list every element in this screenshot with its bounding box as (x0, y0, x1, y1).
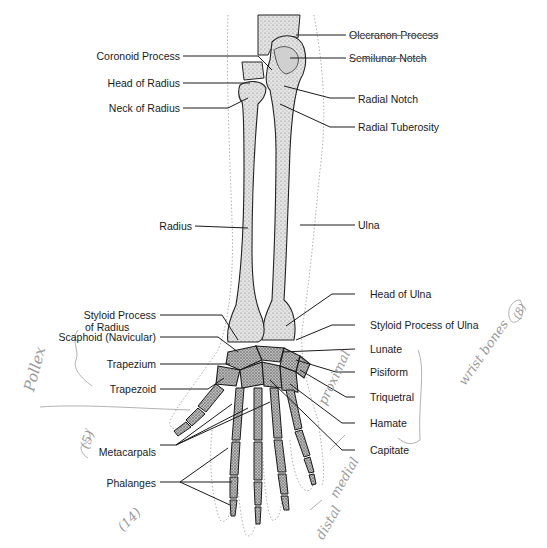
label-styloid-process-radius: Styloid Process (72, 309, 156, 321)
label-ulna: Ulna (358, 219, 380, 231)
label-semilunar-notch: Semilunar Notch (349, 52, 427, 64)
label-head-of-radius: Head of Radius (96, 77, 180, 89)
label-radial-tuberosity: Radial Tuberosity (358, 121, 439, 133)
label-neck-of-radius: Neck of Radius (96, 102, 180, 114)
ulna-bone (262, 36, 306, 340)
forearm-hand-diagram (0, 0, 547, 548)
label-phalanges: Phalanges (72, 477, 156, 489)
hand-bones (174, 384, 316, 524)
label-olecranon-process: Olecranon Process (349, 29, 438, 41)
carpal-bones (216, 346, 310, 392)
label-radius: Radius (130, 220, 192, 232)
label-capitate: Capitate (370, 444, 409, 456)
label-triquetral: Triquetral (370, 391, 414, 403)
label-scaphoid: Scaphoid (Navicular) (40, 331, 156, 343)
label-trapezoid: Trapezoid (72, 383, 156, 395)
label-head-of-ulna: Head of Ulna (370, 288, 431, 300)
label-radial-notch: Radial Notch (358, 93, 418, 105)
label-trapezium: Trapezium (72, 358, 156, 370)
label-lunate: Lunate (370, 343, 402, 355)
label-coronoid-process: Coronoid Process (96, 50, 180, 62)
label-styloid-process-ulna: Styloid Process of Ulna (370, 319, 479, 331)
label-hamate: Hamate (370, 417, 407, 429)
radius-bone (227, 82, 266, 342)
label-pisiform: Pisiform (370, 366, 408, 378)
